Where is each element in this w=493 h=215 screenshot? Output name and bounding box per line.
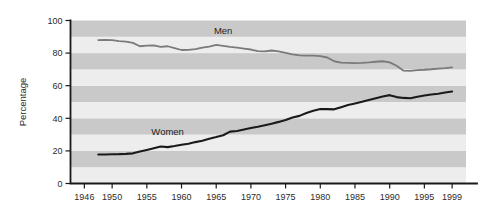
axis-titles: Percentage xyxy=(17,78,28,127)
y-axis-tick-label: 100 xyxy=(47,16,62,26)
background-band xyxy=(71,69,467,85)
line-chart: 020406080100 194619501955196019651970197… xyxy=(0,0,493,215)
background-band xyxy=(71,86,467,102)
background-band xyxy=(71,102,467,118)
y-axis-tick-labels: 020406080100 xyxy=(47,16,62,189)
y-axis-tick-label: 40 xyxy=(52,114,62,124)
x-axis-tick-label: 1946 xyxy=(74,192,94,202)
background-band xyxy=(71,21,467,37)
series-annotation-women: Women xyxy=(151,126,184,137)
y-axis-tick-label: 0 xyxy=(57,179,62,189)
y-axis-tick-label: 60 xyxy=(52,81,62,91)
y-axis-title: Percentage xyxy=(17,78,28,127)
background-band xyxy=(71,135,467,151)
x-axis-tick-label: 1980 xyxy=(310,192,330,202)
background-band xyxy=(71,118,467,134)
x-axis-tick-label: 1999 xyxy=(442,192,462,202)
series-annotation-men: Men xyxy=(214,25,232,36)
x-axis-tick-label: 1975 xyxy=(276,192,296,202)
chart-figure: 020406080100 194619501955196019651970197… xyxy=(0,0,493,215)
background-band xyxy=(71,53,467,69)
x-axis-tick-label: 1965 xyxy=(206,192,226,202)
x-axis-tick-label: 1995 xyxy=(414,192,434,202)
x-axis-tick-labels: 1946195019551960196519701975198019851990… xyxy=(74,192,462,202)
x-axis-tick-label: 1970 xyxy=(241,192,261,202)
background-band xyxy=(71,167,467,183)
x-axis-tick-label: 1985 xyxy=(345,192,365,202)
x-axis-tick-label: 1990 xyxy=(380,192,400,202)
y-axis-tick-label: 80 xyxy=(52,48,62,58)
plot-background-bands xyxy=(71,21,467,184)
x-axis-tick-label: 1960 xyxy=(172,192,192,202)
x-axis-tick-label: 1950 xyxy=(102,192,122,202)
y-axis-tick-label: 20 xyxy=(52,146,62,156)
x-axis-tick-label: 1955 xyxy=(137,192,157,202)
